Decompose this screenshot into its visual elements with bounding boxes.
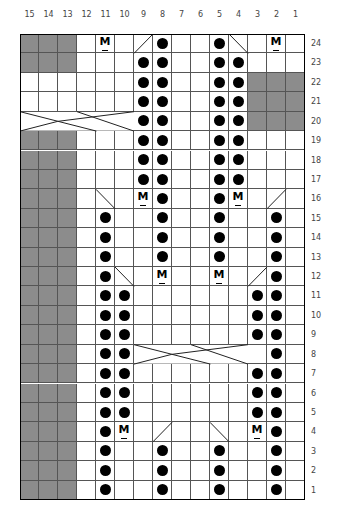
stitch-cell [96,73,115,92]
stitch-cell [58,481,77,500]
stitch-cell [39,34,58,53]
stitch-cell [210,73,229,92]
stitch-cell [191,306,210,325]
stitch-cell [96,422,115,441]
stitch-cell [286,112,305,131]
stitch-cell [20,228,39,247]
stitch-cell [96,442,115,461]
stitch-cell [267,248,286,267]
stitch-cell [77,112,96,131]
stitch-cell [191,384,210,403]
column-label: 8 [153,10,172,19]
stitch-cell [153,92,172,111]
stitch-cell [39,267,58,286]
stitch-cell [39,170,58,189]
purl-dot-icon [252,310,263,321]
stitch-cell [191,481,210,500]
stitch-cell [153,170,172,189]
stitch-cell [20,131,39,150]
stitch-cell [210,92,229,111]
stitch-cell [58,92,77,111]
stitch-cell [39,53,58,72]
stitch-cell [134,151,153,170]
stitch-cell [115,228,134,247]
stitch-cell [153,345,172,364]
stitch-cell: M [267,34,286,53]
stitch-cell [96,189,115,208]
stitch-cell [172,306,191,325]
purl-dot-icon [252,407,263,418]
stitch-cell [115,403,134,422]
purl-dot-icon [233,174,244,185]
purl-dot-icon [271,387,282,398]
stitch-cell [39,248,58,267]
row-label: 23 [311,58,331,67]
stitch-cell [58,286,77,305]
stitch-cell [229,306,248,325]
purl-dot-icon [138,115,149,126]
stitch-cell [20,209,39,228]
stitch-cell [229,112,248,131]
purl-dot-icon [119,407,130,418]
stitch-cell [134,481,153,500]
stitch-cell [20,325,39,344]
stitch-cell [248,151,267,170]
stitch-cell: M [248,422,267,441]
stitch-cell [267,151,286,170]
purl-dot-icon [100,445,111,456]
stitch-cell [77,228,96,247]
stitch-cell [229,325,248,344]
stitch-cell [39,131,58,150]
stitch-cell [77,306,96,325]
stitch-cell [153,403,172,422]
stitch-cell [153,461,172,480]
stitch-cell [248,461,267,480]
stitch-cell [153,189,172,208]
stitch-cell [248,345,267,364]
purl-dot-icon [100,212,111,223]
stitch-cell [77,34,96,53]
stitch-cell [172,112,191,131]
row-label: 12 [311,272,331,281]
stitch-cell: M [115,422,134,441]
stitch-cell [172,384,191,403]
stitch-cell [20,112,39,131]
stitch-cell [248,34,267,53]
stitch-cell [115,461,134,480]
stitch-cell [286,384,305,403]
purl-dot-icon [157,38,168,49]
stitch-cell [229,92,248,111]
purl-dot-icon [119,310,130,321]
stitch-cell [286,481,305,500]
stitch-cell [96,170,115,189]
stitch-cell [115,481,134,500]
column-label: 10 [115,10,134,19]
stitch-cell [248,92,267,111]
purl-dot-icon [271,465,282,476]
stitch-cell [58,384,77,403]
stitch-cell [58,189,77,208]
stitch-cell [96,131,115,150]
stitch-cell [267,422,286,441]
stitch-cell [229,286,248,305]
stitch-cell [172,92,191,111]
stitch-cell [20,267,39,286]
purl-dot-icon [138,174,149,185]
stitch-cell [172,461,191,480]
stitch-cell [77,92,96,111]
purl-dot-icon [271,368,282,379]
stitch-cell [134,267,153,286]
purl-dot-icon [214,212,225,223]
stitch-cell [58,34,77,53]
stitch-cell [191,228,210,247]
purl-dot-icon [100,310,111,321]
stitch-cell [134,92,153,111]
row-label: 18 [311,156,331,165]
stitch-cell [191,189,210,208]
stitch-cell [96,92,115,111]
make-one-symbol: M [96,36,114,48]
stitch-cell [172,325,191,344]
row-label: 11 [311,291,331,300]
stitch-cell [96,403,115,422]
stitch-cell [115,248,134,267]
